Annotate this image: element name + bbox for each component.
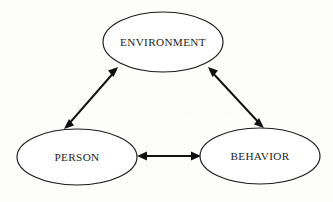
diagram-svg: ENVIRONMENT PERSON BEHAVIOR: [0, 0, 333, 202]
arrow-head-icon: [137, 152, 147, 161]
node-behavior-label: BEHAVIOR: [230, 150, 289, 162]
node-person-label: PERSON: [55, 151, 100, 163]
connector-line: [210, 70, 261, 125]
connector-person-behavior[interactable]: [137, 152, 201, 161]
arrow-head-icon: [108, 67, 118, 77]
arrow-head-icon: [208, 67, 218, 77]
node-person[interactable]: PERSON: [17, 129, 137, 185]
node-behavior[interactable]: BEHAVIOR: [200, 128, 320, 184]
node-environment[interactable]: ENVIRONMENT: [103, 12, 223, 72]
connector-environment-behavior[interactable]: [208, 67, 264, 128]
node-layer: ENVIRONMENT PERSON BEHAVIOR: [17, 12, 320, 185]
connector-person-environment[interactable]: [64, 67, 118, 129]
diagram-canvas: ENVIRONMENT PERSON BEHAVIOR: [0, 0, 333, 202]
node-environment-label: ENVIRONMENT: [120, 36, 206, 48]
connector-line: [67, 70, 116, 126]
